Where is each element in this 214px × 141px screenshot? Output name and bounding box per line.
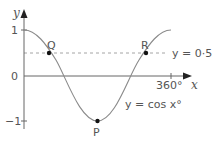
y-tick-label-minus-1: −1 <box>5 115 21 128</box>
curve-label: y = cos x° <box>125 98 182 111</box>
point-p-label: P <box>93 126 100 139</box>
point-q-label: Q <box>47 39 56 52</box>
point-p-marker <box>95 119 99 123</box>
y-tick-label-0: 0 <box>11 70 18 83</box>
point-r-label: R <box>141 39 149 52</box>
x-axis-label: x <box>191 78 198 92</box>
y-axis-arrow-icon <box>21 9 28 18</box>
reference-line-label: y = 0·5 <box>172 47 212 60</box>
y-tick-label-1: 1 <box>11 24 18 37</box>
cosine-graph: y 1 0 −1 360° x Q R P y = 0·5 y = cos x° <box>0 0 214 141</box>
x-tick-label-360: 360° <box>156 79 183 92</box>
y-axis-label: y <box>12 6 20 20</box>
